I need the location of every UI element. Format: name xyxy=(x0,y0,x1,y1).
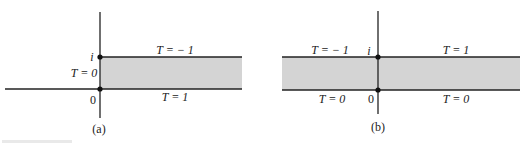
point-origin xyxy=(97,86,102,91)
panel-b: i 0 T = − 1 T = 1 T = 0 T = 0 (b) xyxy=(282,11,520,134)
top-left-boundary-label: T = − 1 xyxy=(311,43,349,57)
point-i xyxy=(97,54,102,59)
bottom-left-boundary-label: T = 0 xyxy=(319,92,346,106)
shaded-strip xyxy=(282,57,520,90)
origin-label: 0 xyxy=(368,92,374,106)
imag-unit-label: i xyxy=(90,50,93,64)
point-origin xyxy=(375,87,380,92)
imag-unit-label: i xyxy=(367,44,370,58)
panel-caption: (a) xyxy=(92,122,105,136)
left-edge-label: T = 0 xyxy=(71,66,98,80)
origin-label: 0 xyxy=(90,93,96,107)
top-right-boundary-label: T = 1 xyxy=(443,43,470,57)
top-boundary-label: T = − 1 xyxy=(156,43,194,57)
point-i xyxy=(375,54,380,59)
shaded-half-strip xyxy=(100,57,242,89)
figure-canvas: i 0 T = 0 T = − 1 T = 1 (a) i 0 T = − 1 … xyxy=(0,0,529,149)
panel-caption: (b) xyxy=(371,120,385,134)
faint-figure-caption-remnant xyxy=(2,140,72,143)
bottom-boundary-label: T = 1 xyxy=(162,90,189,104)
panel-a: i 0 T = 0 T = − 1 T = 1 (a) xyxy=(5,12,242,136)
bottom-right-boundary-label: T = 0 xyxy=(443,92,470,106)
